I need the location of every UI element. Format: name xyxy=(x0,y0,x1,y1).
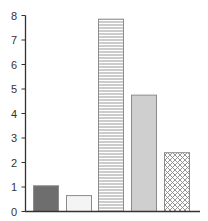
y-tick-label: 0 xyxy=(11,206,17,218)
bars-group xyxy=(34,19,190,211)
y-tick-label: 7 xyxy=(11,34,17,46)
bar-chart: 012345678 xyxy=(0,0,208,221)
y-tick-label: 2 xyxy=(11,157,17,169)
y-axis: 012345678 xyxy=(11,10,26,218)
bar-2 xyxy=(67,196,92,212)
y-tick-label: 1 xyxy=(11,181,17,193)
bar-3 xyxy=(99,19,124,211)
y-tick-label: 8 xyxy=(11,10,17,22)
bar-1 xyxy=(34,186,59,212)
bar-5 xyxy=(165,153,190,212)
y-tick-label: 4 xyxy=(11,108,17,120)
bar-4 xyxy=(132,95,157,211)
y-tick-label: 5 xyxy=(11,83,17,95)
y-tick-label: 3 xyxy=(11,132,17,144)
y-tick-label: 6 xyxy=(11,59,17,71)
